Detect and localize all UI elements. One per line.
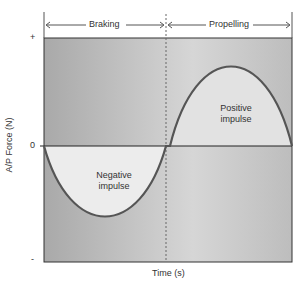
propelling-label: Propelling — [209, 19, 249, 29]
x-axis-label: Time (s) — [152, 268, 185, 278]
positive-impulse-label: Positiveimpulse — [206, 103, 266, 125]
braking-label: Braking — [89, 19, 120, 29]
negative-impulse-label: Negativeimpulse — [84, 170, 144, 192]
y-plus-tick: + — [30, 32, 35, 42]
y-axis-label: A/P Force (N) — [4, 118, 14, 173]
y-minus-tick: - — [31, 254, 34, 264]
chart-canvas — [0, 0, 302, 286]
y-zero-tick: 0 — [30, 140, 35, 150]
